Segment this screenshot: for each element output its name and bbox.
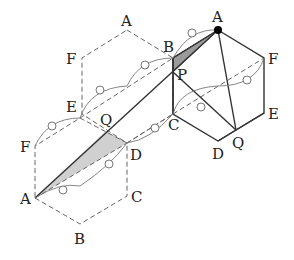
label-middle-C: C <box>168 116 179 134</box>
tick-mark <box>197 103 205 111</box>
tick-mark <box>96 86 104 94</box>
arc-5 <box>127 58 173 86</box>
tick-mark <box>188 29 196 37</box>
label-left-A: A <box>19 190 31 208</box>
dashed-diagonal-3 <box>80 58 173 118</box>
label-right-A: A <box>211 8 223 26</box>
label-middle-B: B <box>163 38 174 56</box>
label-right-E: E <box>268 105 279 123</box>
label-right-Q: Q <box>232 134 244 152</box>
vertex-dot-A <box>214 26 222 34</box>
tick-mark <box>151 124 159 132</box>
tick-mark <box>59 186 67 194</box>
label-right-F: F <box>268 50 278 68</box>
label-middle-E: E <box>66 98 77 116</box>
label-left-C: C <box>131 188 142 206</box>
label-left-F: F <box>20 138 30 156</box>
hexagon-net-diagram: A F E B C D Q F A B C A F E D Q P <box>0 0 294 260</box>
label-middle-A: A <box>120 12 132 30</box>
label-right-D: D <box>212 145 224 163</box>
dashed-diagonal-2 <box>127 114 173 143</box>
tick-mark <box>141 61 149 69</box>
tick-mark <box>48 122 56 130</box>
label-middle-F: F <box>66 50 76 68</box>
tick-mark <box>243 76 251 84</box>
label-left-B: B <box>74 230 85 248</box>
tick-mark <box>105 160 113 168</box>
label-middle-D: D <box>130 146 142 164</box>
label-P: P <box>177 66 187 84</box>
label-Q-left: Q <box>100 111 112 129</box>
